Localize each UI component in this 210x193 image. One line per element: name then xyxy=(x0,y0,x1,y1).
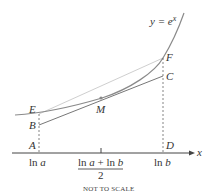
x-axis-arrow-icon xyxy=(189,151,195,156)
axis-label-x: x xyxy=(196,146,202,158)
label-m: M xyxy=(95,103,106,115)
diagram-canvas: y = ex F C E B A D M x ln a ln b ln a + … xyxy=(0,0,210,193)
label-c: C xyxy=(166,70,174,82)
label-b: B xyxy=(29,119,36,131)
point-m xyxy=(99,96,102,99)
tick-midpoint-numerator: ln a + ln b xyxy=(78,156,124,168)
label-f: F xyxy=(165,51,173,63)
exponential-curve xyxy=(15,13,184,115)
tick-midpoint-denominator: 2 xyxy=(98,169,104,181)
label-e: E xyxy=(28,103,36,115)
tangent-bc xyxy=(39,76,163,125)
curve-label: y = ex xyxy=(149,14,177,27)
label-a: A xyxy=(28,139,36,151)
tick-ln-b: ln b xyxy=(154,156,171,168)
not-to-scale-note: NOT TO SCALE xyxy=(83,185,134,193)
label-d: D xyxy=(165,139,174,151)
tick-ln-a: ln a xyxy=(29,156,46,168)
